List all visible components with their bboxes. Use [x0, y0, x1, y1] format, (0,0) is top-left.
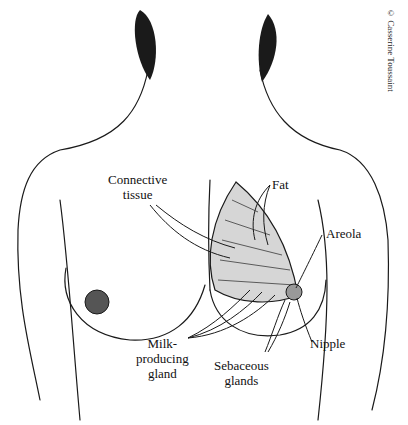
leader-sebaceous-2	[268, 302, 290, 352]
left-arm-line	[60, 200, 80, 420]
label-milk-producing-gland: Milk- producing gland	[136, 336, 189, 381]
label-areola: Areola	[326, 226, 361, 241]
label-connective-tissue-text: Connective tissue	[108, 172, 167, 202]
label-connective-tissue: Connective tissue	[108, 172, 167, 202]
left-neck-shadow	[135, 10, 156, 80]
leader-areola	[296, 235, 322, 288]
leader-sebaceous-1	[265, 300, 285, 352]
label-fat: Fat	[272, 177, 289, 192]
copyright-credit: © Casserine Toussaint	[386, 8, 396, 92]
left-nipple	[85, 290, 109, 314]
label-nipple: Nipple	[310, 336, 345, 351]
right-neck-shadow	[259, 14, 277, 82]
label-fat-text: Fat	[272, 177, 289, 192]
label-sebaceous-glands: Sebaceous glands	[214, 358, 269, 388]
label-sebaceous-glands-text: Sebaceous glands	[214, 358, 269, 388]
label-nipple-text: Nipple	[310, 336, 345, 351]
breast-anatomy-illustration	[0, 0, 408, 425]
sternum-line	[209, 180, 211, 290]
areola-mark	[286, 284, 302, 300]
label-milk-producing-gland-text: Milk- producing gland	[136, 336, 189, 381]
label-areola-text: Areola	[326, 226, 361, 241]
torso-left-outline	[18, 70, 148, 400]
